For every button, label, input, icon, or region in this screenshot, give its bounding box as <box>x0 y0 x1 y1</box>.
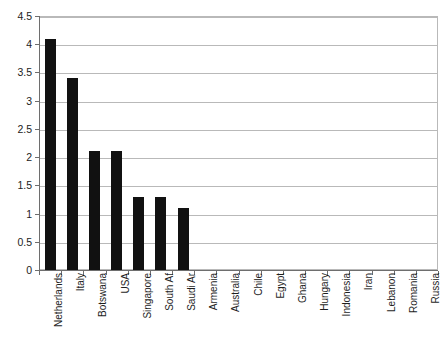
y-axis-tick-label: 2.5 <box>17 124 32 135</box>
bar <box>178 208 189 270</box>
bar <box>67 78 78 270</box>
bars-container <box>39 16 438 270</box>
x-axis-category-label: Lebanon <box>387 273 397 312</box>
x-axis-category-label: Indonesia <box>342 273 352 316</box>
y-axis-tick-label: 3 <box>26 96 32 107</box>
y-axis-tick-label: 0 <box>26 265 32 276</box>
x-axis-category-label: Italy <box>76 273 86 291</box>
x-axis-category-label: Chile <box>254 273 264 296</box>
y-axis-tick-label: 3.5 <box>17 67 32 78</box>
x-axis-category-label: Romania <box>409 273 419 313</box>
x-axis-category-label: Netherlands <box>54 273 64 327</box>
y-axis-tick-labels: 00.511.522.533.544.5 <box>0 0 34 340</box>
bar <box>111 151 122 270</box>
x-axis-category-label: Armenia <box>209 273 219 310</box>
bar <box>133 197 144 270</box>
x-axis-category-label: Iran <box>364 273 374 290</box>
y-axis-tick-label: 1 <box>26 209 32 220</box>
x-axis-category-label: Australia <box>231 273 241 312</box>
y-axis-tick-label: 4.5 <box>17 11 32 22</box>
x-axis-category-label: USA <box>121 273 131 294</box>
bar-chart: 00.511.522.533.544.5 NetherlandsItalyBot… <box>0 0 448 340</box>
x-axis-category-label: Singapore <box>143 273 153 319</box>
x-axis-category-label: Ghana <box>298 273 308 303</box>
y-axis-tick-label: 1.5 <box>17 180 32 191</box>
x-axis-category-label: Saudi Ar <box>187 273 197 311</box>
y-axis-tick-label: 0.5 <box>17 237 32 248</box>
x-axis-category-label: Egypt <box>276 273 286 299</box>
x-axis-category-label: Botswana <box>98 273 108 317</box>
x-axis-category-label: South Af <box>165 273 175 311</box>
y-axis-tick-label: 2 <box>26 152 32 163</box>
x-axis-category-label: Hungary <box>320 273 330 311</box>
bar <box>45 39 56 270</box>
clipped-caption-remnant <box>0 329 448 340</box>
bar <box>89 151 100 270</box>
y-axis-tick-label: 4 <box>26 39 32 50</box>
bar <box>155 197 166 270</box>
x-axis-category-label: Russia <box>431 273 441 304</box>
